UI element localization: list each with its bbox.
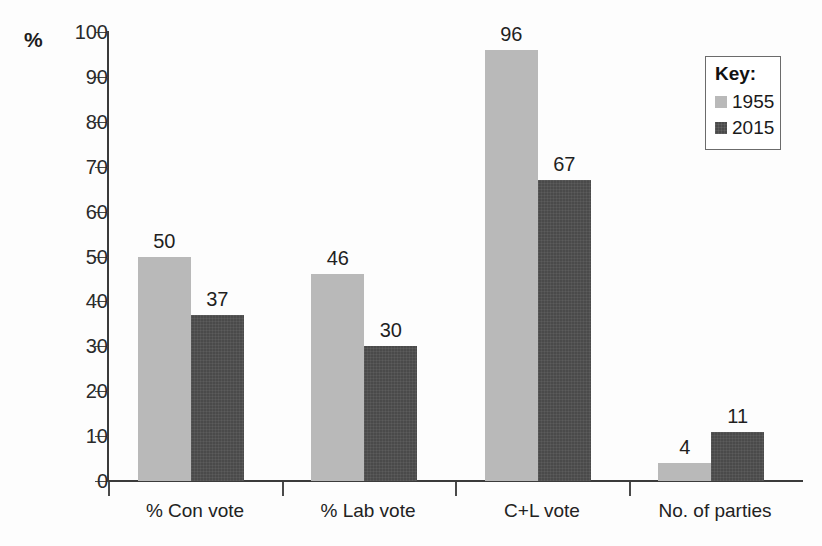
bar-2015-3 [711, 432, 764, 481]
legend-swatch-1955-icon [715, 96, 727, 108]
bar-2015-1 [364, 346, 417, 481]
bar-value-label: 50 [153, 230, 175, 253]
bar-value-label: 11 [727, 405, 748, 428]
bar-1955-0 [138, 257, 191, 482]
y-axis-tick-label: 50 [52, 245, 108, 268]
legend-label-1955: 1955 [732, 92, 774, 112]
bar-1955-2 [485, 50, 538, 481]
legend-item-2015: 2015 [715, 118, 780, 138]
y-axis-tick-label: 90 [52, 65, 108, 88]
y-axis-unit-label: % [24, 28, 42, 52]
plot-area: 503746309667411 [108, 32, 802, 481]
x-axis-tick-mark [282, 482, 284, 496]
bar-value-label: 37 [206, 288, 228, 311]
y-axis-tick-label: 30 [52, 335, 108, 358]
y-axis-tick-label: 100 [52, 21, 108, 44]
y-axis-tick-label: 10 [52, 425, 108, 448]
y-axis-tick-label: 60 [52, 200, 108, 223]
legend-label-2015: 2015 [732, 118, 774, 138]
y-axis-tick-label: 70 [52, 155, 108, 178]
x-axis-tick-mark [108, 482, 110, 496]
x-axis-category-label: % Con vote [146, 500, 244, 522]
bar-value-label: 96 [500, 23, 522, 46]
bar-value-label: 4 [679, 436, 690, 459]
bar-2015-0 [191, 315, 244, 481]
legend-item-1955: 1955 [715, 92, 780, 112]
y-axis-tick-label: 0 [52, 470, 108, 493]
legend-title: Key: [715, 62, 780, 86]
x-axis-category-label: C+L vote [504, 500, 580, 522]
y-axis-tick-label: 40 [52, 290, 108, 313]
bar-chart: % 0102030405060708090100 503746309667411… [0, 0, 822, 546]
x-axis-tick-mark [629, 482, 631, 496]
x-axis-category-label: % Lab vote [320, 500, 415, 522]
bar-1955-3 [658, 463, 711, 481]
bar-1955-1 [311, 274, 364, 481]
bar-value-label: 30 [380, 319, 402, 342]
legend: Key: 1955 2015 [705, 56, 781, 150]
y-axis-tick-label: 80 [52, 110, 108, 133]
x-axis-tick-mark [455, 482, 457, 496]
x-axis-category-label: No. of parties [659, 500, 772, 522]
bar-value-label: 46 [327, 247, 349, 270]
legend-swatch-2015-icon [715, 122, 727, 134]
y-axis-tick-label: 20 [52, 380, 108, 403]
bar-2015-2 [538, 180, 591, 481]
bar-value-label: 67 [553, 153, 575, 176]
